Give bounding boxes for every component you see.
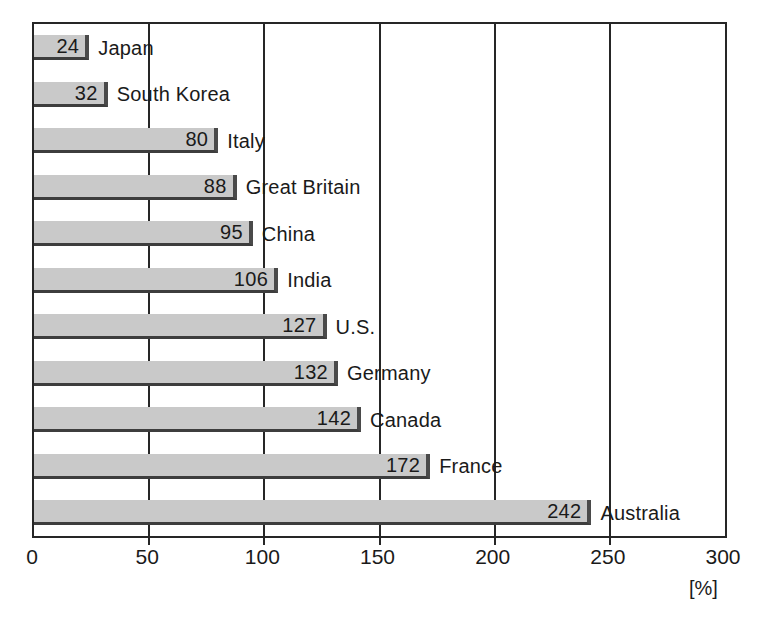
- bar-u-s: 127: [34, 314, 327, 339]
- bar-row: 32South Korea: [34, 71, 725, 118]
- bar-japan: 24: [34, 35, 89, 60]
- bar-value-label: 80: [185, 129, 214, 149]
- bar-value-label: 242: [547, 501, 587, 521]
- bar-value-label: 106: [234, 269, 274, 289]
- x-axis-unit-label: [%]: [689, 578, 718, 598]
- bar-row: 132Germany: [34, 350, 725, 397]
- bar-great-britain: 88: [34, 175, 237, 200]
- x-tick-label-50: 50: [135, 546, 158, 567]
- bar-row: 24Japan: [34, 24, 725, 71]
- x-tick-label-200: 200: [475, 546, 510, 567]
- bar-category-label: Germany: [347, 361, 431, 386]
- bar-value-label: 32: [75, 83, 104, 103]
- bar-china: 95: [34, 221, 253, 246]
- bar-category-label: Australia: [600, 500, 680, 525]
- bar-chart: 24Japan32South Korea80Italy88Great Brita…: [0, 0, 759, 619]
- bar-category-label: India: [287, 268, 331, 293]
- x-tick-150: [379, 536, 381, 545]
- bars-layer: 24Japan32South Korea80Italy88Great Brita…: [34, 24, 725, 536]
- bar-value-label: 172: [386, 455, 426, 475]
- x-tick-label-250: 250: [590, 546, 625, 567]
- bar-row: 127U.S.: [34, 303, 725, 350]
- x-tick-200: [494, 536, 496, 545]
- x-tick-label-150: 150: [360, 546, 395, 567]
- x-tick-50: [148, 536, 150, 545]
- bar-row: 242Australia: [34, 489, 725, 536]
- x-tick-label-300: 300: [705, 546, 740, 567]
- bar-category-label: Japan: [98, 35, 154, 60]
- bar-value-label: 95: [220, 222, 249, 242]
- bar-row: 95China: [34, 210, 725, 257]
- bar-value-label: 127: [282, 315, 322, 335]
- bar-value-label: 132: [294, 362, 334, 382]
- bar-category-label: South Korea: [117, 82, 230, 107]
- bar-category-label: Great Britain: [246, 175, 361, 200]
- bar-row: 80Italy: [34, 117, 725, 164]
- bar-category-label: China: [262, 221, 315, 246]
- bar-category-label: U.S.: [336, 314, 376, 339]
- bar-india: 106: [34, 268, 278, 293]
- bar-row: 88Great Britain: [34, 164, 725, 211]
- x-tick-250: [609, 536, 611, 545]
- x-tick-100: [263, 536, 265, 545]
- bar-france: 172: [34, 454, 430, 479]
- bar-value-label: 24: [56, 36, 85, 56]
- bar-value-label: 142: [317, 408, 357, 428]
- x-tick-label-100: 100: [245, 546, 280, 567]
- bar-row: 172France: [34, 443, 725, 490]
- bar-germany: 132: [34, 361, 338, 386]
- bar-row: 142Canada: [34, 396, 725, 443]
- bar-italy: 80: [34, 128, 218, 153]
- bar-category-label: France: [439, 454, 502, 479]
- bar-australia: 242: [34, 500, 591, 525]
- plot-area-frame: 24Japan32South Korea80Italy88Great Brita…: [32, 22, 727, 538]
- bar-category-label: Italy: [227, 128, 265, 153]
- bar-value-label: 88: [204, 176, 233, 196]
- bar-category-label: Canada: [370, 407, 441, 432]
- bar-row: 106India: [34, 257, 725, 304]
- x-tick-label-0: 0: [26, 546, 38, 567]
- bar-south-korea: 32: [34, 82, 108, 107]
- bar-canada: 142: [34, 407, 361, 432]
